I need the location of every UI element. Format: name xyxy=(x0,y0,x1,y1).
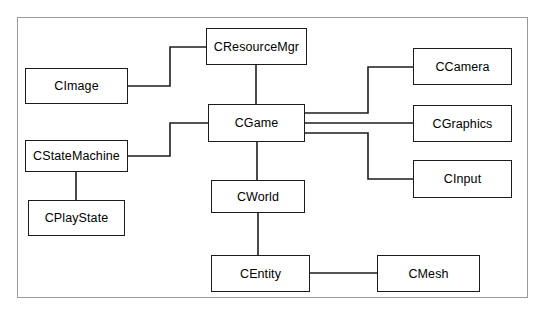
node-cimage[interactable]: CImage xyxy=(25,68,128,104)
node-cmesh[interactable]: CMesh xyxy=(377,255,480,292)
connector-cgame-ccamera xyxy=(305,67,413,113)
node-cinput[interactable]: CInput xyxy=(413,160,512,198)
node-cgraphics[interactable]: CGraphics xyxy=(413,105,512,142)
node-label-cgame: CGame xyxy=(235,116,279,130)
node-label-cmesh: CMesh xyxy=(408,267,448,281)
node-label-cinput: CInput xyxy=(444,172,481,186)
node-label-cresourcemgr: CResourceMgr xyxy=(214,40,299,54)
node-cworld[interactable]: CWorld xyxy=(211,180,305,213)
node-cresourcemgr[interactable]: CResourceMgr xyxy=(206,28,307,65)
node-centity[interactable]: CEntity xyxy=(211,255,310,292)
node-label-cimage: CImage xyxy=(54,79,98,93)
connector-cimage-cresourcemgr xyxy=(128,47,206,86)
node-label-ccamera: CCamera xyxy=(435,60,489,74)
node-label-cplaystate: CPlayState xyxy=(45,211,109,225)
diagram-canvas: CResourceMgrCImageCGameCCameraCGraphicsC… xyxy=(0,0,545,316)
node-label-cstatemachine: CStateMachine xyxy=(33,149,120,163)
node-label-centity: CEntity xyxy=(240,267,281,281)
connector-cstatemachine-cgame xyxy=(128,123,208,156)
node-label-cworld: CWorld xyxy=(237,190,279,204)
node-cgame[interactable]: CGame xyxy=(208,104,305,142)
node-ccamera[interactable]: CCamera xyxy=(413,48,512,85)
connector-cgame-cinput xyxy=(305,133,413,179)
node-cstatemachine[interactable]: CStateMachine xyxy=(25,140,128,172)
node-label-cgraphics: CGraphics xyxy=(433,117,493,131)
node-cplaystate[interactable]: CPlayState xyxy=(28,200,125,236)
